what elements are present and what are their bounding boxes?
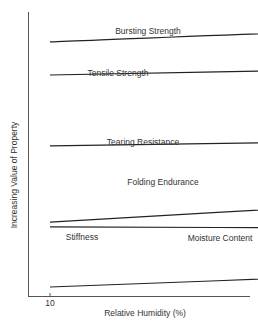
series-labels: Bursting StrengthTensile StrengthTearing… (66, 26, 253, 243)
stiffness-label: Stiffness (66, 232, 98, 242)
humidity-property-chart: 1020304050607080 Relative Humidity (%) I… (0, 0, 258, 324)
x-axis-title: Relative Humidity (%) (104, 308, 186, 318)
bursting-strength-label: Bursting Strength (115, 26, 181, 36)
moisture-content-label: Moisture Content (188, 233, 253, 243)
x-ticks: 1020304050607080 (45, 293, 258, 308)
tearing-resistance-label: Tearing Resistance (107, 137, 180, 147)
series-lines (50, 23, 258, 287)
x-tick-label: 10 (45, 298, 55, 308)
tensile-strength-line (50, 66, 258, 95)
folding-endurance-line (50, 157, 258, 222)
y-axis-title: Increasing Value of Property (9, 121, 19, 228)
tensile-strength-label: Tensile Strength (88, 68, 149, 78)
axes: 1020304050607080 Relative Humidity (%) I… (9, 12, 258, 318)
folding-endurance-label: Folding Endurance (127, 177, 199, 187)
moisture-content-line (50, 220, 258, 287)
